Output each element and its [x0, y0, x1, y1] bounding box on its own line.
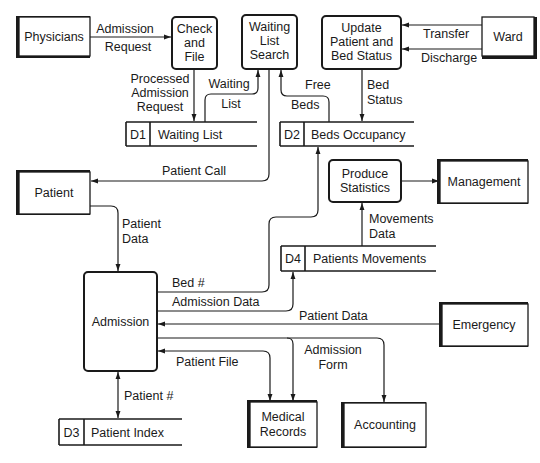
- entity-label: Records: [260, 425, 307, 439]
- process-label: Waiting: [249, 20, 290, 34]
- process-label: Update: [341, 21, 381, 35]
- datastore-d4-patients-movements[interactable]: D4 Patients Movements: [281, 246, 436, 271]
- datastore-id: D2: [284, 128, 300, 142]
- flow-waiting-list: Waiting List: [205, 70, 258, 122]
- entity-emergency[interactable]: Emergency: [439, 302, 528, 347]
- flow-label: Form: [318, 358, 347, 372]
- flow-patient-number: Patient #: [118, 372, 173, 418]
- flow-patient-file: Patient File: [158, 351, 270, 401]
- flow-discharge: Discharge: [402, 49, 482, 65]
- entity-patient[interactable]: Patient: [16, 170, 90, 215]
- process-update-status[interactable]: Update Patient and Bed Status: [322, 16, 401, 69]
- flow-label: Transfer: [423, 27, 469, 41]
- data-flow-diagram: Physicians Ward Patient Management Emerg…: [0, 0, 540, 463]
- flow-processed-admission-request: Processed Admission Request: [130, 69, 194, 121]
- entity-label: Management: [448, 175, 521, 189]
- process-label: List: [260, 34, 280, 48]
- process-label: Check: [177, 22, 213, 36]
- flow-label: Data: [369, 227, 395, 241]
- flow-label: Patient: [122, 217, 161, 231]
- flow-movements-data: Movements Data: [362, 203, 434, 246]
- flow-label: Admission Data: [172, 295, 260, 309]
- entity-label: Accounting: [354, 418, 416, 432]
- entity-label: Patient: [35, 186, 74, 200]
- process-label: Admission: [92, 315, 150, 329]
- process-label: Bed Status: [331, 49, 392, 63]
- flow-label: Bed #: [172, 276, 205, 290]
- flow-transfer: Transfer: [402, 25, 482, 41]
- flow-label: List: [221, 97, 241, 111]
- datastore-id: D4: [285, 252, 301, 266]
- flow-label: Request: [105, 40, 152, 54]
- flow-label: Bed: [367, 78, 389, 92]
- flow-bed-status: Bed Status: [362, 69, 402, 121]
- process-label: Patient and: [330, 35, 393, 49]
- process-label: File: [184, 50, 204, 64]
- flow-label: Waiting: [208, 77, 249, 91]
- flow-free-beds: Free Beds: [281, 70, 331, 122]
- flow-label: Patient File: [176, 355, 239, 369]
- flow-label: Movements: [369, 212, 434, 226]
- flow-label: Admission: [131, 86, 189, 100]
- entity-management[interactable]: Management: [437, 159, 528, 204]
- process-check-and-file[interactable]: Check and File: [172, 17, 217, 69]
- datastore-id: D3: [64, 426, 80, 440]
- process-label: Produce: [342, 167, 389, 181]
- datastore-name: Beds Occupancy: [311, 128, 406, 142]
- flow-label: Request: [137, 100, 184, 114]
- flow-label: Admission: [96, 22, 154, 36]
- flow-label: Status: [367, 93, 402, 107]
- datastore-id: D1: [130, 128, 146, 142]
- datastore-name: Patients Movements: [313, 252, 426, 266]
- flow-label: Data: [122, 232, 148, 246]
- entity-ward[interactable]: Ward: [482, 17, 537, 59]
- entity-accounting[interactable]: Accounting: [341, 402, 426, 448]
- datastore-d1-waiting-list[interactable]: D1 Waiting List: [126, 122, 257, 146]
- flow-label: Free: [305, 78, 331, 92]
- datastore-d2-beds-occupancy[interactable]: D2 Beds Occupancy: [280, 122, 414, 146]
- entity-medical-records[interactable]: Medical Records: [247, 400, 317, 448]
- process-admission[interactable]: Admission: [84, 272, 157, 371]
- flow-admission-request: Admission Request: [90, 22, 171, 54]
- flow-label: Processed: [130, 72, 189, 86]
- entity-label: Emergency: [452, 318, 516, 332]
- flow-label: Admission: [304, 343, 362, 357]
- process-label: and: [184, 36, 205, 50]
- entity-label: Ward: [493, 30, 522, 44]
- flow-label: Beds: [291, 98, 320, 112]
- datastore-d3-patient-index[interactable]: D3 Patient Index: [59, 419, 182, 445]
- datastore-name: Waiting List: [158, 128, 223, 142]
- flow-patient-data-1: Patient Data: [90, 206, 161, 271]
- entity-physicians[interactable]: Physicians: [16, 16, 90, 58]
- flow-label: Discharge: [421, 51, 477, 65]
- entity-label: Physicians: [24, 30, 84, 44]
- process-waiting-list-search[interactable]: Waiting List Search: [242, 15, 297, 69]
- entity-label: Medical: [261, 410, 304, 424]
- flow-label: Patient Call: [162, 164, 226, 178]
- flow-label: Patient Data: [299, 309, 368, 323]
- process-produce-statistics[interactable]: Produce Statistics: [329, 160, 401, 202]
- process-label: Statistics: [340, 181, 390, 195]
- datastore-name: Patient Index: [91, 426, 165, 440]
- flow-label: Patient #: [124, 389, 173, 403]
- process-label: Search: [250, 48, 290, 62]
